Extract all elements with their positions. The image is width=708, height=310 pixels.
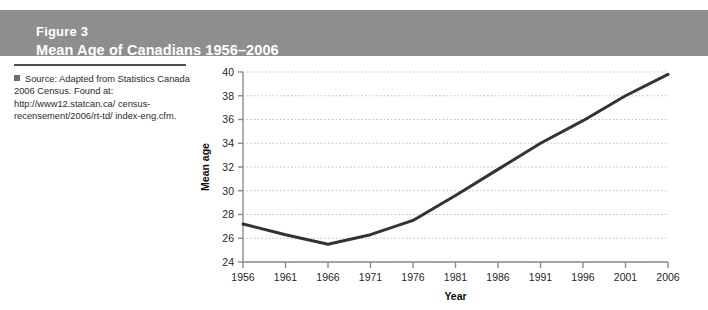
svg-text:2001: 2001 xyxy=(614,271,638,283)
svg-text:38: 38 xyxy=(222,90,234,102)
y-axis-title: Mean age xyxy=(199,143,211,191)
svg-text:1981: 1981 xyxy=(444,271,468,283)
svg-text:1986: 1986 xyxy=(486,271,510,283)
svg-text:1966: 1966 xyxy=(316,271,340,283)
svg-text:1976: 1976 xyxy=(401,271,425,283)
svg-text:1961: 1961 xyxy=(274,271,298,283)
svg-text:28: 28 xyxy=(222,208,234,220)
svg-text:1971: 1971 xyxy=(359,271,383,283)
svg-text:24: 24 xyxy=(222,256,234,268)
svg-text:1956: 1956 xyxy=(231,271,255,283)
svg-text:40: 40 xyxy=(222,66,234,78)
x-axis-title: Year xyxy=(444,290,466,302)
svg-text:34: 34 xyxy=(222,137,234,149)
svg-text:32: 32 xyxy=(222,161,234,173)
svg-text:1991: 1991 xyxy=(529,271,553,283)
svg-text:2006: 2006 xyxy=(656,271,680,283)
svg-text:30: 30 xyxy=(222,185,234,197)
svg-text:36: 36 xyxy=(222,113,234,125)
grid-lines xyxy=(243,72,668,262)
y-axis-tick-labels: 242628303234363840 xyxy=(222,66,234,268)
line-chart: 242628303234363840 195619611966197119761… xyxy=(0,0,708,310)
svg-text:26: 26 xyxy=(222,232,234,244)
y-axis-ticks xyxy=(238,72,243,262)
data-series-mean-age xyxy=(243,74,668,244)
svg-text:1996: 1996 xyxy=(571,271,595,283)
x-axis-tick-labels: 1956196119661971197619811986199119962001… xyxy=(231,271,680,283)
x-axis-ticks xyxy=(243,262,668,268)
